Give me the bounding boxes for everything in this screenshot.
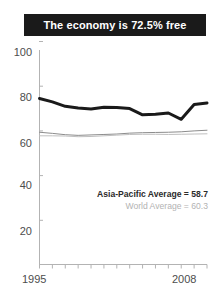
data-series-group — [40, 98, 208, 136]
plot-area: 100 80 60 40 20 1995 2008 Asia-Pacific A… — [0, 0, 216, 303]
chart-figure: The economy is 72.5% free 100 80 60 40 2… — [0, 0, 216, 303]
series-line — [40, 98, 208, 119]
legend: Asia-Pacific Average = 58.7 World Averag… — [60, 188, 208, 212]
legend-world-average: World Average = 60.3 — [60, 200, 208, 212]
x-axis-ticks — [40, 265, 208, 269]
legend-asia-pacific-average: Asia-Pacific Average = 58.7 — [60, 188, 208, 200]
chart-svg — [0, 0, 216, 303]
